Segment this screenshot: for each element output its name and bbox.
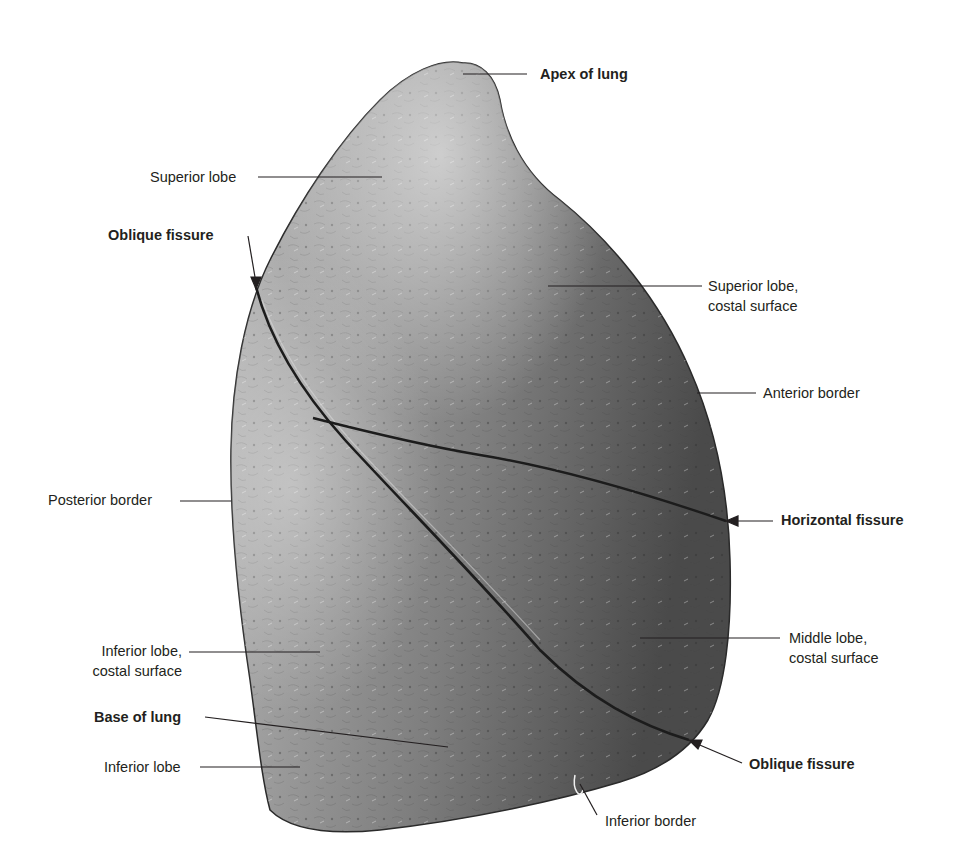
label-line-1: Superior lobe, [708, 276, 798, 296]
lung-illustration [0, 0, 965, 866]
label-line-1: Inferior lobe, [70, 641, 182, 661]
label-inferior-border: Inferior border [605, 811, 696, 831]
lung-diagram: Apex of lung Superior lobe Oblique fissu… [0, 0, 965, 866]
label-inferior-lobe: Inferior lobe [104, 757, 181, 777]
label-apex-of-lung: Apex of lung [540, 64, 628, 84]
label-anterior-border: Anterior border [763, 383, 860, 403]
label-line-2: costal surface [708, 296, 798, 316]
label-oblique-fissure-top: Oblique fissure [108, 225, 214, 245]
label-middle-lobe-costal-surface: Middle lobe, costal surface [789, 628, 878, 668]
label-posterior-border: Posterior border [48, 490, 152, 510]
label-line-2: costal surface [789, 648, 878, 668]
label-line-2: costal surface [70, 661, 182, 681]
label-horizontal-fissure: Horizontal fissure [781, 510, 903, 530]
label-inferior-lobe-costal-surface: Inferior lobe, costal surface [70, 641, 182, 681]
label-superior-lobe-costal-surface: Superior lobe, costal surface [708, 276, 798, 316]
label-superior-lobe: Superior lobe [150, 167, 236, 187]
label-oblique-fissure-bottom: Oblique fissure [749, 754, 855, 774]
label-base-of-lung: Base of lung [94, 707, 181, 727]
label-line-1: Middle lobe, [789, 628, 878, 648]
